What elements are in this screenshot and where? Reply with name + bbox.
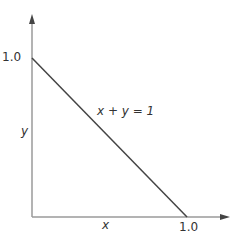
line-x-plus-y-eq-1: [32, 58, 187, 217]
plot-area: [0, 0, 239, 241]
y-axis-arrow-icon: [29, 14, 35, 24]
x-axis-label: x: [102, 218, 109, 232]
x-axis-arrow-icon: [220, 214, 230, 220]
x-tick-label: 1.0: [179, 220, 198, 234]
line-label: x + y = 1: [97, 104, 154, 118]
y-axis-label: y: [21, 124, 28, 138]
y-tick-label: 1.0: [2, 50, 21, 64]
